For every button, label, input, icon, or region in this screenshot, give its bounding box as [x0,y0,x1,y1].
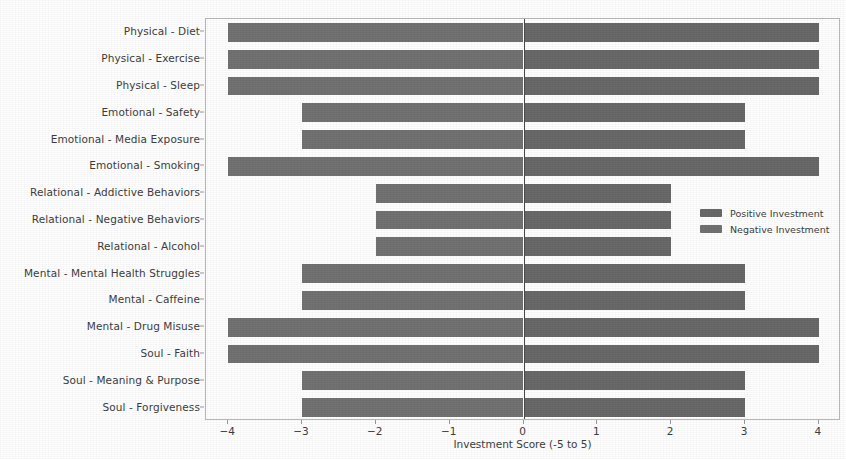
bar-positive-investment[interactable] [524,211,672,230]
x-axis-tick-label: −4 [219,425,234,437]
bar-positive-investment[interactable] [524,77,819,96]
y-axis-tick-label: Physical - Diet [0,25,200,37]
legend-label: Negative Investment [730,224,829,235]
x-axis-tick-label: 0 [519,425,526,437]
y-axis-tick-label: Relational - Addictive Behaviors [0,186,200,198]
bar-positive-investment[interactable] [524,291,746,310]
x-axis-tick-mark [375,420,376,424]
x-axis-tick-mark [670,420,671,424]
bar-negative-investment[interactable] [302,130,524,149]
y-axis-tick-mark [200,85,204,86]
bar-row[interactable] [206,237,839,256]
bar-positive-investment[interactable] [524,103,746,122]
bar-row[interactable] [206,130,839,149]
y-axis-tick-mark [200,326,204,327]
y-axis-tick-label: Mental - Mental Health Struggles [0,267,200,279]
bar-negative-investment[interactable] [302,398,524,417]
x-axis-tick-mark [818,420,819,424]
zero-reference-line [524,19,525,419]
bar-row[interactable] [206,157,839,176]
x-axis-tick-label: 4 [815,425,822,437]
bar-negative-investment[interactable] [376,184,524,203]
bar-negative-investment[interactable] [302,264,524,283]
bar-positive-investment[interactable] [524,184,672,203]
bar-row[interactable] [206,345,839,364]
bar-positive-investment[interactable] [524,318,819,337]
y-axis-tick-mark [200,219,204,220]
y-axis-tick-mark [200,31,204,32]
x-axis-tick-label: 2 [667,425,674,437]
y-axis-tick-mark [200,299,204,300]
bar-row[interactable] [206,77,839,96]
y-axis-tick-mark [200,406,204,407]
bar-negative-investment[interactable] [302,291,524,310]
y-axis-tick-label: Mental - Drug Misuse [0,320,200,332]
y-axis-tick-label: Emotional - Safety [0,106,200,118]
y-axis-tick-mark [200,272,204,273]
bar-row[interactable] [206,264,839,283]
bar-negative-investment[interactable] [302,103,524,122]
x-axis-tick-mark [596,420,597,424]
bar-positive-investment[interactable] [524,398,746,417]
y-axis-tick-mark [200,353,204,354]
y-axis-tick-mark [200,165,204,166]
bar-negative-investment[interactable] [376,237,524,256]
bar-row[interactable] [206,103,839,122]
y-axis-tick-label: Relational - Alcohol [0,240,200,252]
legend-label: Positive Investment [730,208,823,219]
y-axis-tick-labels: Physical - DietPhysical - ExercisePhysic… [0,18,200,420]
y-axis-tick-label: Mental - Caffeine [0,293,200,305]
y-axis-tick-mark [200,58,204,59]
bar-negative-investment[interactable] [228,157,523,176]
y-axis-tick-mark [200,192,204,193]
bar-row[interactable] [206,184,839,203]
y-axis-tick-mark [200,111,204,112]
bar-row[interactable] [206,291,839,310]
x-axis-tick-label: −3 [293,425,308,437]
bar-positive-investment[interactable] [524,157,819,176]
x-axis-tick-mark [744,420,745,424]
y-axis-tick-label: Soul - Meaning & Purpose [0,374,200,386]
y-axis-tick-label: Physical - Sleep [0,79,200,91]
y-axis-tick-mark [200,379,204,380]
bar-positive-investment[interactable] [524,371,746,390]
chart-legend: Positive InvestmentNegative Investment [700,206,840,238]
y-axis-tick-label: Relational - Negative Behaviors [0,213,200,225]
bar-row[interactable] [206,23,839,42]
bar-positive-investment[interactable] [524,345,819,364]
x-axis-tick-mark [449,420,450,424]
x-axis-tick-mark [227,420,228,424]
bar-negative-investment[interactable] [376,211,524,230]
bar-negative-investment[interactable] [228,23,523,42]
y-axis-tick-mark [200,138,204,139]
x-axis-tick-label: 3 [741,425,748,437]
bar-positive-investment[interactable] [524,237,672,256]
x-axis-tick-mark [301,420,302,424]
x-axis-tick-mark [523,420,524,424]
x-axis-tick-label: 1 [593,425,600,437]
y-axis-tick-label: Soul - Forgiveness [0,401,200,413]
bar-negative-investment[interactable] [228,318,523,337]
y-axis-tick-label: Soul - Faith [0,347,200,359]
bar-negative-investment[interactable] [228,50,523,69]
bar-row[interactable] [206,371,839,390]
bar-row[interactable] [206,50,839,69]
y-axis-tick-label: Physical - Exercise [0,52,200,64]
chart-figure: Physical - DietPhysical - ExercisePhysic… [0,0,846,459]
bar-positive-investment[interactable] [524,264,746,283]
bar-negative-investment[interactable] [228,345,523,364]
y-axis-tick-label: Emotional - Smoking [0,159,200,171]
bar-row[interactable] [206,318,839,337]
legend-entry[interactable]: Negative Investment [700,222,840,236]
x-axis-tick-label: −2 [367,425,382,437]
y-axis-tick-mark [200,245,204,246]
x-axis-label: Investment Score (-5 to 5) [205,438,840,450]
bar-positive-investment[interactable] [524,130,746,149]
bar-negative-investment[interactable] [302,371,524,390]
bar-positive-investment[interactable] [524,23,819,42]
bar-row[interactable] [206,398,839,417]
bar-negative-investment[interactable] [228,77,523,96]
bar-positive-investment[interactable] [524,50,819,69]
legend-entry[interactable]: Positive Investment [700,206,840,220]
x-axis-tick-label: −1 [441,425,456,437]
